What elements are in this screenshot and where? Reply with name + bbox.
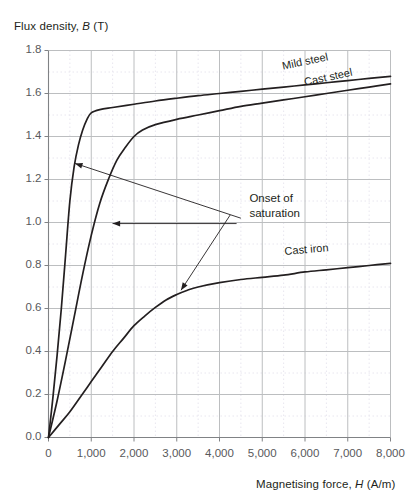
annotation-arrow-head — [113, 221, 121, 227]
annotation-arrows — [75, 163, 241, 290]
annotation-onset-of-saturation: Onset ofsaturation — [249, 191, 300, 221]
major-gridlines — [49, 51, 391, 438]
annotation-line-1: Onset of — [249, 191, 300, 206]
annotation-arrow-head — [181, 282, 188, 290]
chart-figure: Flux density, B (T) Magnetising force, H… — [0, 0, 406, 502]
y-axis-ticks — [45, 51, 49, 438]
annotation-arrow-head — [75, 163, 83, 169]
annotation-arrow-line — [75, 163, 241, 218]
x-axis-ticks — [49, 438, 391, 442]
annotation-arrow-line — [181, 215, 230, 290]
annotation-line-2: saturation — [249, 206, 300, 221]
